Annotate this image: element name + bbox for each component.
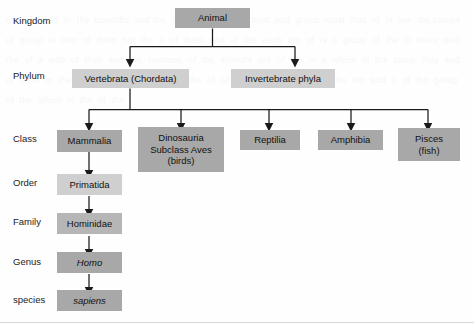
node-dinosauria[interactable]: Dinosauria Subclass Aves (birds) (138, 127, 224, 172)
node-homo-line1: Homo (77, 257, 102, 269)
node-hominidae-line1: Hominidae (67, 218, 112, 230)
rank-label-family: Family (13, 216, 41, 227)
node-pisces-line1: Pisces (415, 133, 443, 145)
rank-label-genus: Genus (13, 256, 41, 267)
node-primatida[interactable]: Primatida (57, 174, 122, 195)
node-vertebrata-line1: Vertebrata (Chordata) (85, 73, 177, 85)
node-primatida-line1: Primatida (69, 179, 109, 191)
node-vertebrata[interactable]: Vertebrata (Chordata) (72, 69, 189, 88)
node-reptilia[interactable]: Reptilia (240, 130, 300, 150)
node-amphibia[interactable]: Amphibia (318, 130, 383, 150)
node-amphibia-line1: Amphibia (331, 134, 371, 146)
node-dinosauria-line3: (birds) (168, 155, 195, 167)
node-dinosauria-line1: Dinosauria (158, 132, 203, 144)
node-invertebrate-phyla[interactable]: Invertebrate phyla (231, 69, 335, 88)
taxonomy-diagram: the of hand in the scientific and the la… (0, 0, 474, 324)
node-dinosauria-line2: Subclass Aves (150, 144, 212, 156)
node-pisces-line2: (fish) (418, 145, 439, 157)
rank-label-species: species (13, 294, 45, 305)
node-pisces[interactable]: Pisces (fish) (398, 128, 460, 161)
node-mammalia[interactable]: Mammalia (57, 130, 122, 152)
node-sapiens[interactable]: sapiens (57, 290, 122, 311)
node-hominidae[interactable]: Hominidae (57, 213, 122, 234)
rank-label-order: Order (13, 177, 37, 188)
rank-label-phylum: Phylum (13, 70, 45, 81)
node-mammalia-line1: Mammalia (68, 135, 112, 147)
node-homo[interactable]: Homo (57, 252, 122, 273)
node-reptilia-line1: Reptilia (254, 134, 286, 146)
node-animal[interactable]: Animal (175, 8, 250, 28)
bottom-rule (0, 322, 474, 323)
node-animal-line1: Animal (198, 12, 227, 24)
connector-lines (0, 0, 474, 324)
node-sapiens-line1: sapiens (73, 295, 106, 307)
rank-label-class: Class (13, 133, 37, 144)
rank-label-kingdom: Kingdom (13, 15, 51, 26)
node-invertebrate-line1: Invertebrate phyla (245, 73, 321, 85)
